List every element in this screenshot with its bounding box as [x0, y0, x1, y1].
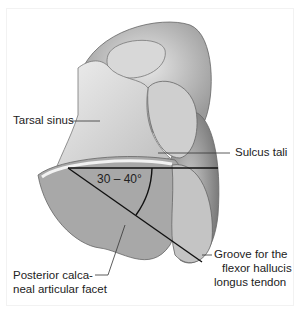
label-tarsal-sinus: Tarsal sinus	[13, 114, 74, 127]
angle-label: 30 – 40°	[97, 172, 142, 186]
label-sulcus-tali: Sulcus tali	[235, 146, 287, 159]
